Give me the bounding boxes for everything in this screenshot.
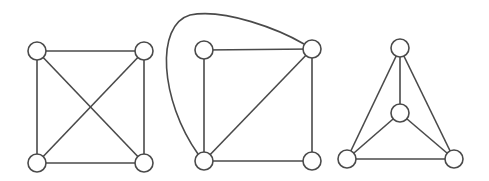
node-d <box>303 152 321 170</box>
node-b <box>135 42 153 60</box>
curved-edge-c-b <box>166 14 304 154</box>
node-bl <box>338 150 356 168</box>
edge-top-br <box>400 48 454 159</box>
edge-a-b <box>204 49 312 50</box>
node-c <box>195 152 213 170</box>
graph-k4-triangle-center <box>338 39 463 168</box>
edge-center-br <box>400 113 454 159</box>
graph-k4-square-crossing <box>28 42 153 172</box>
edge-top-bl <box>347 48 400 159</box>
edge-b-c <box>204 49 312 161</box>
node-b <box>303 40 321 58</box>
node-a <box>195 41 213 59</box>
node-d <box>135 154 153 172</box>
node-c <box>28 154 46 172</box>
edge-center-bl <box>347 113 400 159</box>
node-center <box>391 104 409 122</box>
node-a <box>28 42 46 60</box>
node-br <box>445 150 463 168</box>
graph-diagram-canvas <box>0 0 489 181</box>
graph-k4-square-curved <box>166 14 321 170</box>
node-top <box>391 39 409 57</box>
